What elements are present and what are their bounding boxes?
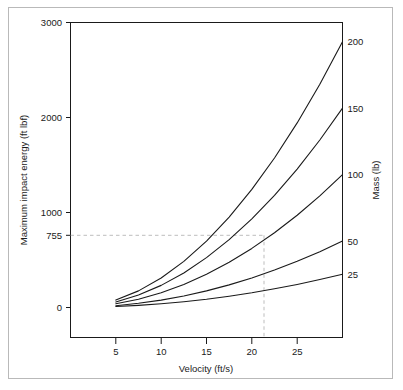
- series-end-label-50: 50: [348, 236, 359, 247]
- x-tick-label-20: 20: [247, 346, 258, 357]
- y-tick-label-1000: 1000: [41, 207, 62, 218]
- y-tick-label-2000: 2000: [41, 112, 62, 123]
- y-tick-label-3000: 3000: [41, 17, 62, 28]
- x-tick-label-25: 25: [292, 346, 303, 357]
- x-axis-ticks: [116, 338, 297, 345]
- series-line-200: [116, 42, 343, 300]
- y-axis-ticks: [66, 23, 71, 308]
- data-series-group: [116, 42, 343, 307]
- x-tick-label-10: 10: [156, 346, 167, 357]
- plot-frame: [71, 23, 343, 338]
- impact-energy-figure: 3000 2000 1000 755 0 Maximum impact ener…: [0, 0, 403, 390]
- series-end-label-100: 100: [348, 169, 364, 180]
- y-tick-label-0: 0: [57, 302, 62, 313]
- y-tick-label-755: 755: [46, 230, 62, 241]
- y-axis-title: Maximum impact energy (ft lbf): [18, 115, 29, 245]
- x-axis-tick-labels: 5 10 15 20 25: [113, 346, 302, 357]
- y2-axis-title: Mass (lb): [370, 160, 381, 199]
- series-end-label-25: 25: [348, 269, 359, 280]
- chart-canvas: 3000 2000 1000 755 0 Maximum impact ener…: [0, 0, 403, 390]
- series-end-label-200: 200: [348, 36, 364, 47]
- y-axis-tick-labels: 3000 2000 1000 755 0: [41, 17, 62, 313]
- series-end-label-150: 150: [348, 103, 364, 114]
- series-end-labels: 2001501005025: [348, 36, 364, 280]
- guide-lines: [71, 235, 265, 337]
- x-axis-title: Velocity (ft/s): [179, 363, 233, 374]
- x-tick-label-5: 5: [113, 346, 118, 357]
- x-tick-label-15: 15: [201, 346, 212, 357]
